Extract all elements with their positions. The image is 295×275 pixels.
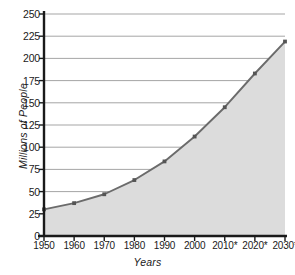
data-point-marker-2020 [253,72,257,76]
y-tick-label: 200 [0,52,40,64]
data-point-marker-2030 [283,40,287,44]
data-point-marker-2000 [193,135,197,139]
y-tick-label: 225 [0,30,40,42]
x-tick-label: 2020* [242,240,267,251]
area-fill [44,42,285,236]
x-tick-label: 1980 [124,240,145,251]
data-point-marker-1980 [132,178,136,182]
x-tick-label: 1970 [94,240,115,251]
x-tick-label: 2030* [272,240,295,251]
population-growth-chart: Millions of People 025507510012515017520… [0,0,295,275]
x-tick-label: 1960 [63,240,84,251]
data-point-marker-1970 [102,192,106,196]
footnote-sliver [30,268,150,274]
y-tick-label: 75 [0,163,40,175]
data-point-marker-1960 [72,201,76,205]
x-tick-label: 1990 [154,240,175,251]
y-tick-label: 25 [0,208,40,220]
x-axis-tick-labels: 1950196019701980199020002010*2020*2030* [0,240,295,256]
x-tick-label: 2010* [212,240,237,251]
x-axis-title: Years [0,256,295,268]
x-tick-label: 1950 [33,240,54,251]
y-tick-label: 150 [0,97,40,109]
data-point-marker-1990 [163,160,167,164]
data-point-marker-2010 [223,105,227,109]
y-tick-label: 250 [0,8,40,20]
y-axis-tick-labels: 0255075100125150175200225250 [0,0,40,275]
y-tick-label: 125 [0,119,40,131]
x-tick-label: 2000 [184,240,205,251]
y-tick-label: 100 [0,141,40,153]
y-tick-label: 175 [0,75,40,87]
y-tick-label: 50 [0,186,40,198]
plot-area [0,0,295,275]
